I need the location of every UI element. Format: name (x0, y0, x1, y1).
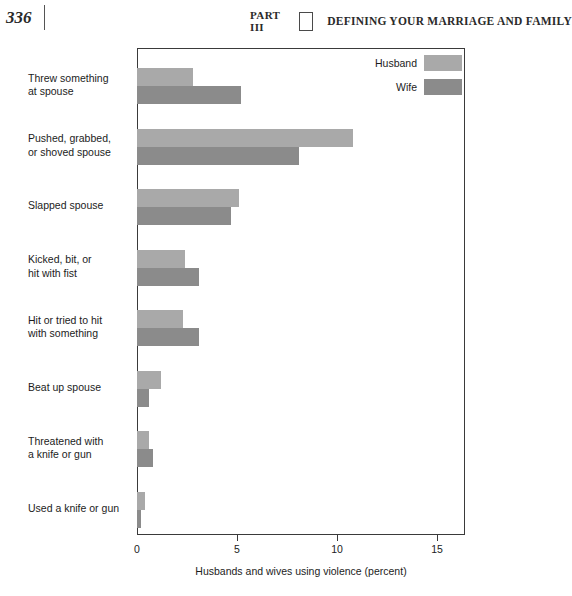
x-tick-label-15: 15 (422, 543, 452, 555)
bar-wife-7 (137, 510, 141, 528)
category-label-line: Kicked, bit, or (28, 253, 132, 267)
category-label-line: or shoved spouse (28, 146, 132, 160)
x-tick-15 (437, 535, 438, 541)
category-label-6: Threatened witha knife or gun (28, 435, 132, 462)
legend-swatch-husband (424, 55, 462, 71)
category-label-1: Pushed, grabbed,or shoved spouse (28, 132, 132, 159)
x-tick-label-0: 0 (122, 543, 152, 555)
category-label-line: Slapped spouse (28, 199, 132, 213)
x-tick-label-5: 5 (222, 543, 252, 555)
category-label-0: Threw somethingat spouse (28, 72, 132, 99)
category-label-line: Pushed, grabbed, (28, 132, 132, 146)
category-label-line: with something (28, 327, 132, 341)
category-label-7: Used a knife or gun (28, 502, 132, 516)
category-label-line: Used a knife or gun (28, 502, 132, 516)
category-label-line: Threatened with (28, 435, 132, 449)
bar-wife-2 (137, 207, 231, 225)
category-label-2: Slapped spouse (28, 199, 132, 213)
category-label-line: a knife or gun (28, 448, 132, 462)
bar-husband-6 (137, 431, 149, 449)
category-label-line: Hit or tried to hit (28, 314, 132, 328)
legend-label-husband: Husband (375, 57, 417, 69)
category-label-line: at spouse (28, 85, 132, 99)
x-tick-label-10: 10 (322, 543, 352, 555)
bar-husband-1 (137, 129, 353, 147)
category-label-3: Kicked, bit, orhit with fist (28, 253, 132, 280)
legend-swatch-wife (424, 79, 462, 95)
bar-wife-1 (137, 147, 299, 165)
x-tick-10 (337, 535, 338, 541)
legend-label-wife: Wife (396, 81, 417, 93)
category-label-line: hit with fist (28, 267, 132, 281)
bar-wife-4 (137, 328, 199, 346)
bar-husband-0 (137, 68, 193, 86)
plot-frame (137, 48, 465, 535)
legend-item-wife: Wife (366, 79, 462, 95)
category-label-4: Hit or tried to hitwith something (28, 314, 132, 341)
legend-item-husband: Husband (366, 55, 462, 71)
bar-husband-3 (137, 250, 185, 268)
bar-husband-4 (137, 310, 183, 328)
bar-wife-6 (137, 449, 153, 467)
bar-husband-7 (137, 492, 145, 510)
bar-husband-2 (137, 189, 239, 207)
bar-wife-3 (137, 268, 199, 286)
category-label-line: Threw something (28, 72, 132, 86)
bar-wife-5 (137, 389, 149, 407)
bar-wife-0 (137, 86, 241, 104)
bar-husband-5 (137, 371, 161, 389)
category-label-line: Beat up spouse (28, 381, 132, 395)
x-tick-5 (237, 535, 238, 541)
legend: Husband Wife (366, 55, 462, 103)
category-label-5: Beat up spouse (28, 381, 132, 395)
x-axis-title: Husbands and wives using violence (perce… (137, 565, 465, 577)
